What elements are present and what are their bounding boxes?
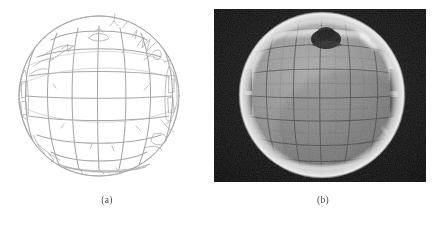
figure-panel-b: (b) bbox=[214, 0, 436, 226]
reflected-ceiling-lines bbox=[22, 51, 178, 122]
figure-panel-a: (a) bbox=[0, 0, 214, 226]
photograph-frame bbox=[214, 9, 426, 182]
panel-a-caption: (a) bbox=[0, 194, 214, 206]
panel-b-caption: (b) bbox=[212, 194, 434, 206]
photo-grain bbox=[214, 9, 426, 182]
photograph-canvas bbox=[214, 9, 426, 182]
figure-root: (a) bbox=[0, 0, 436, 226]
sphere-grid-group bbox=[22, 26, 178, 170]
sphere-line-drawing bbox=[4, 4, 210, 190]
sphere-photograph bbox=[214, 9, 426, 182]
line-drawing-canvas bbox=[4, 4, 210, 190]
